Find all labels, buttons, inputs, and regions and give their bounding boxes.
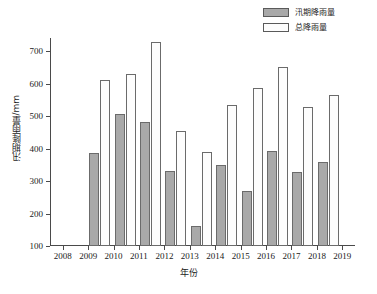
bar-2014-total xyxy=(227,105,237,246)
y-axis-tick-label: 100 xyxy=(30,241,44,251)
y-axis-tick: 300 xyxy=(46,181,50,182)
bar-2014-flood-season xyxy=(216,165,226,246)
y-axis-tick-label: 400 xyxy=(30,144,44,154)
x-axis-tick-label: 2014 xyxy=(206,251,224,261)
x-axis-tick xyxy=(190,246,191,250)
x-axis-tick xyxy=(291,246,292,250)
bar-2009-flood-season xyxy=(89,153,99,246)
bar-2010-flood-season xyxy=(115,114,125,246)
x-axis-title: 年份 xyxy=(0,266,377,279)
bar-2016-total xyxy=(278,67,288,246)
bar-2009-total xyxy=(100,80,110,246)
bar-2018-flood-season xyxy=(318,162,328,247)
x-axis-tick-label: 2019 xyxy=(333,251,351,261)
plot-area: 100200300400500600700 200820092010201120… xyxy=(50,38,355,246)
x-axis-tick-label: 2010 xyxy=(105,251,123,261)
x-axis-tick-label: 2017 xyxy=(282,251,300,261)
bar-2011-total xyxy=(151,42,161,246)
bar-2015-flood-season xyxy=(242,191,252,246)
x-axis-tick xyxy=(63,246,64,250)
bar-2010-total xyxy=(126,74,136,246)
x-axis-tick xyxy=(342,246,343,250)
x-axis-tick xyxy=(266,246,267,250)
x-axis-tick xyxy=(139,246,140,250)
y-axis-tick: 500 xyxy=(46,116,50,117)
x-axis-tick xyxy=(88,246,89,250)
x-axis-tick-label: 2015 xyxy=(232,251,250,261)
bar-2015-total xyxy=(253,88,263,246)
y-axis-tick-label: 300 xyxy=(30,176,44,186)
x-axis-tick-label: 2016 xyxy=(257,251,275,261)
x-axis-tick xyxy=(114,246,115,250)
x-axis-tick-label: 2013 xyxy=(181,251,199,261)
y-axis-tick: 100 xyxy=(46,246,50,247)
y-axis-tick: 700 xyxy=(46,51,50,52)
x-axis-tick xyxy=(317,246,318,250)
x-axis-tick-label: 2009 xyxy=(79,251,97,261)
x-axis-tick-label: 2018 xyxy=(308,251,326,261)
y-axis-tick-label: 600 xyxy=(30,79,44,89)
x-axis-tick-label: 2011 xyxy=(130,251,148,261)
y-axis-tick: 200 xyxy=(46,214,50,215)
x-axis-tick-label: 2008 xyxy=(54,251,72,261)
x-axis-tick xyxy=(241,246,242,250)
x-axis-tick xyxy=(164,246,165,250)
rainfall-bar-chart-figure: 汛期降雨量 总降雨量 汛期降雨量/mm 10020030040050060070… xyxy=(0,0,377,294)
bar-2013-flood-season xyxy=(191,226,201,246)
y-axis-tick-label: 200 xyxy=(30,209,44,219)
y-axis-tick-label: 500 xyxy=(30,111,44,121)
bar-2011-flood-season xyxy=(140,122,150,246)
x-axis-tick-label: 2012 xyxy=(155,251,173,261)
y-axis-tick-label: 700 xyxy=(30,46,44,56)
y-axis-tick: 600 xyxy=(46,84,50,85)
bar-2018-total xyxy=(329,95,339,246)
plot-wrapper: 100200300400500600700 200820092010201120… xyxy=(0,0,377,294)
y-axis-spine xyxy=(50,38,51,246)
bar-2012-total xyxy=(176,131,186,246)
bar-2013-total xyxy=(202,152,212,246)
y-axis-tick: 400 xyxy=(46,149,50,150)
bar-2012-flood-season xyxy=(165,171,175,246)
bar-2017-flood-season xyxy=(292,172,302,246)
bar-2016-flood-season xyxy=(267,151,277,246)
x-axis-tick xyxy=(215,246,216,250)
bar-2017-total xyxy=(303,107,313,246)
